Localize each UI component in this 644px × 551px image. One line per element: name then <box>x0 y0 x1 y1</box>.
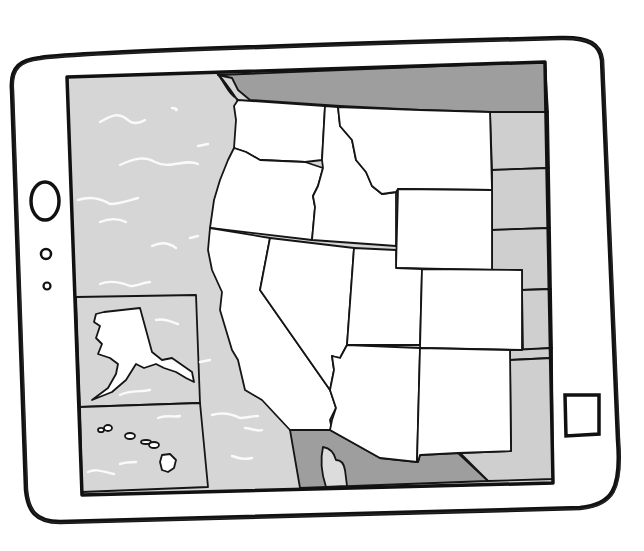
front-camera-icon <box>41 249 51 259</box>
home-button-icon[interactable] <box>31 182 59 220</box>
state-wyoming <box>396 189 492 270</box>
state-oregon <box>210 148 323 240</box>
state-new-mexico <box>417 348 511 462</box>
inset-hawaii-box <box>80 403 208 492</box>
square-button-icon[interactable] <box>565 395 599 436</box>
tablet-map-illustration <box>0 0 644 551</box>
state-colorado <box>420 269 522 350</box>
sensor-dot-icon <box>44 283 51 290</box>
region-kansas <box>522 289 552 350</box>
region-south-dakota <box>492 168 550 230</box>
region-north-dakota <box>490 112 549 170</box>
